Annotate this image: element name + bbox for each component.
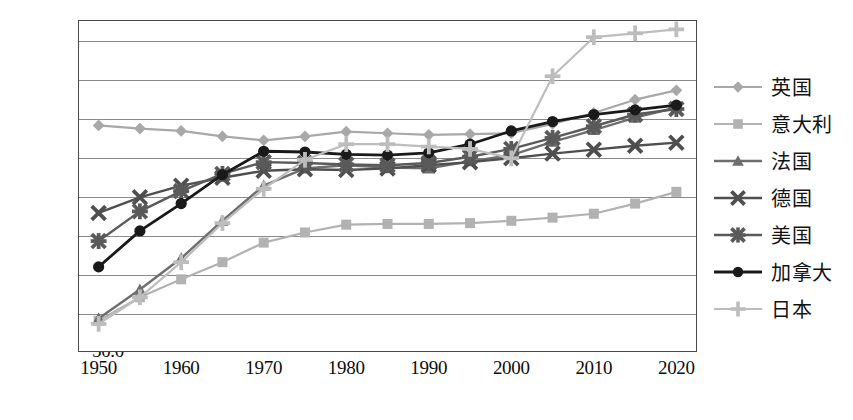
data-point-marker-square: [733, 119, 743, 129]
data-point-marker-square: [176, 274, 186, 284]
legend-label: 美国: [771, 220, 812, 249]
legend-swatch-plus: [712, 299, 764, 319]
data-point-marker-diamond: [629, 94, 641, 106]
data-point-marker-square: [341, 220, 351, 230]
data-series-layer: [78, 20, 697, 352]
data-point-marker-diamond: [134, 123, 146, 135]
data-point-marker-square: [300, 227, 310, 237]
legend-item[interactable]: 英国: [712, 68, 852, 105]
x-axis-tick-label: 1960: [146, 357, 216, 379]
x-axis-tick-label: 1980: [311, 357, 381, 379]
data-point-marker-x: [92, 206, 106, 220]
legend-swatch-diamond: [712, 77, 764, 97]
data-point-marker-plus: [669, 22, 685, 38]
data-point-marker-diamond: [670, 84, 682, 96]
data-point-marker-plus: [731, 301, 746, 316]
data-point-marker-circle: [134, 225, 145, 236]
data-point-marker-plus: [338, 136, 354, 152]
data-point-marker-diamond: [340, 126, 352, 138]
data-point-marker-diamond: [464, 128, 476, 140]
data-point-marker-asterisk: [132, 203, 148, 219]
legend-label: 意大利: [771, 109, 833, 138]
data-point-marker-asterisk: [730, 227, 745, 242]
legend-label: 德国: [771, 183, 812, 212]
data-point-marker-diamond: [217, 131, 229, 143]
legend-swatch-x: [712, 188, 764, 208]
data-point-marker-square: [259, 238, 269, 248]
data-point-marker-square: [217, 257, 227, 267]
data-point-marker-circle: [630, 104, 641, 115]
x-axis-tick-label: 1950: [64, 357, 134, 379]
legend-item[interactable]: 意大利: [712, 105, 852, 142]
data-point-marker-square: [589, 209, 599, 219]
data-point-marker-circle: [506, 125, 517, 136]
legend-item[interactable]: 法国: [712, 142, 852, 179]
legend-swatch-asterisk: [712, 225, 764, 245]
data-point-marker-x: [133, 190, 147, 204]
data-point-marker-asterisk: [586, 118, 602, 134]
data-point-marker-square: [383, 219, 393, 229]
data-point-marker-plus: [380, 136, 396, 152]
gridline: [79, 353, 696, 354]
legend-item[interactable]: 美国: [712, 216, 852, 253]
data-point-marker-circle: [547, 116, 558, 127]
data-point-marker-square: [424, 219, 434, 229]
legend-item[interactable]: 日本: [712, 290, 852, 327]
data-point-marker-circle: [588, 109, 599, 120]
legend-swatch-triangle: [712, 151, 764, 171]
data-point-marker-diamond: [258, 134, 270, 146]
data-point-marker-asterisk: [545, 130, 561, 146]
data-point-marker-circle: [217, 169, 228, 180]
data-point-marker-square: [548, 213, 558, 223]
legend-label: 加拿大: [771, 257, 833, 286]
x-axis-tick-label: 2020: [641, 357, 711, 379]
data-point-marker-circle: [733, 266, 743, 276]
data-point-marker-circle: [671, 100, 682, 111]
legend-label: 法国: [771, 146, 812, 175]
x-axis-tick-label: 2000: [476, 357, 546, 379]
chart-legend: 英国意大利法国德国美国加拿大日本: [712, 68, 852, 327]
data-point-marker-diamond: [93, 120, 105, 132]
legend-label: 英国: [771, 72, 812, 101]
data-point-marker-asterisk: [173, 183, 189, 199]
data-point-marker-plus: [627, 25, 643, 41]
legend-item[interactable]: 加拿大: [712, 253, 852, 290]
data-point-marker-square: [671, 187, 681, 197]
chart-figure: 90.085.080.075.070.065.060.055.050.0 195…: [0, 0, 853, 420]
legend-swatch-circle: [712, 262, 764, 282]
data-point-marker-circle: [258, 146, 269, 157]
data-point-marker-square: [465, 218, 475, 228]
x-axis-tick-label: 1990: [394, 357, 464, 379]
legend-item[interactable]: 德国: [712, 179, 852, 216]
data-point-marker-diamond: [299, 131, 311, 143]
data-point-marker-square: [630, 199, 640, 209]
data-point-marker-square: [506, 216, 516, 226]
legend-label: 日本: [771, 294, 812, 323]
data-point-marker-circle: [176, 198, 187, 209]
x-axis-tick-label: 2010: [559, 357, 629, 379]
series-plus: [91, 22, 684, 332]
legend-swatch-square: [712, 114, 764, 134]
data-point-marker-diamond: [732, 81, 743, 92]
data-point-marker-circle: [93, 261, 104, 272]
data-point-marker-diamond: [175, 125, 187, 137]
data-point-marker-asterisk: [91, 233, 107, 249]
x-axis-tick-label: 1970: [229, 357, 299, 379]
